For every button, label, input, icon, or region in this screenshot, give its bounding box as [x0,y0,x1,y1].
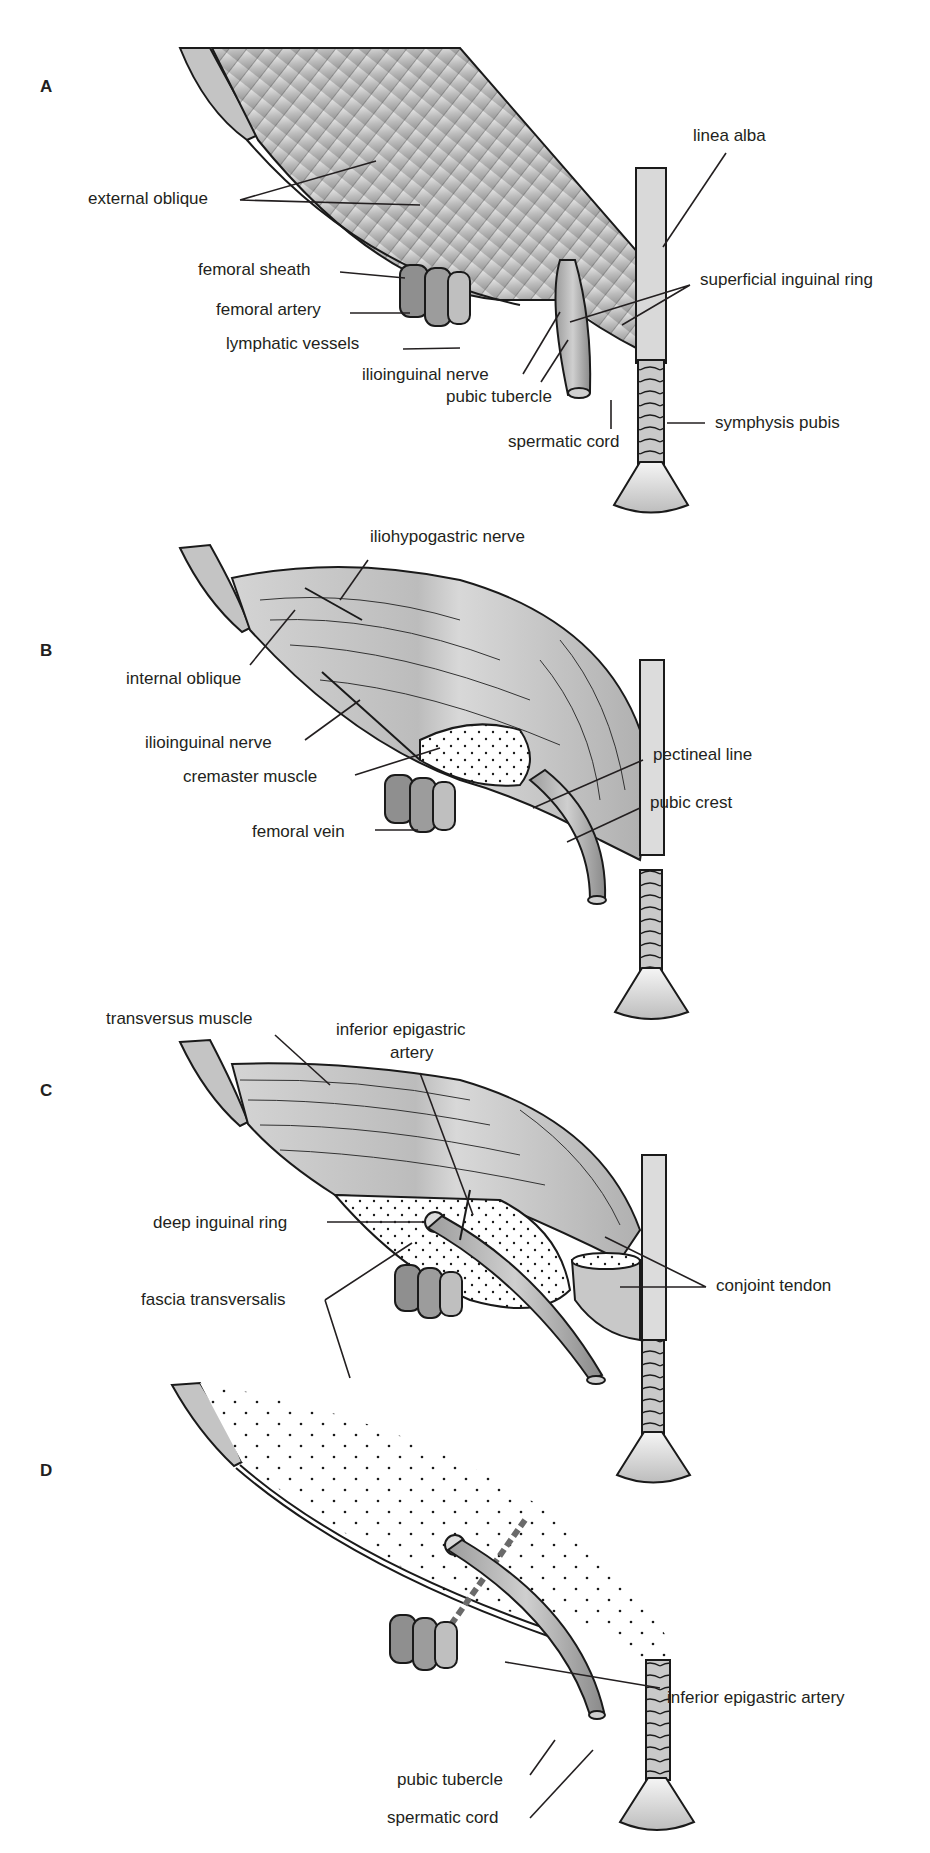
label-external-oblique: external oblique [88,189,208,208]
label-pubic-crest: pubic crest [650,793,732,812]
label-spermatic-cord-d: spermatic cord [387,1808,498,1827]
symphysis-pubis-d [646,1660,670,1780]
symphysis-pubis-a [638,360,664,465]
label-pubic-tubercle-d: pubic tubercle [397,1770,503,1789]
label-femoral-vein: femoral vein [252,822,345,841]
femoral-vessels-b [385,775,455,832]
panel-c: C transversus musc [40,1009,831,1483]
pubic-bone-c [617,1432,690,1483]
panel-d: D inferior epigastric artery pubic tuber… [40,1383,845,1830]
inguinal-anatomy-figure: A external oblique femoral sheath femora… [0,0,930,1853]
linea-alba [636,168,666,363]
linea-alba-c [642,1155,666,1340]
panel-b: B iliohypogastric nerve [40,527,752,1019]
symphysis-pubis-c [642,1340,664,1435]
label-pubic-tubercle-a: pubic tubercle [446,387,552,406]
label-cremaster-muscle: cremaster muscle [183,767,317,786]
pubic-bone-d [620,1778,694,1830]
label-fascia-transversalis: fascia transversalis [141,1290,286,1309]
label-inferior-epigastric-artery-d: inferior epigastric artery [667,1688,845,1707]
femoral-vessels-c [395,1265,462,1318]
femoral-vessels-a [400,265,470,326]
label-internal-oblique: internal oblique [126,669,241,688]
cremaster-muscle [420,724,530,785]
label-deep-inguinal-ring: deep inguinal ring [153,1213,287,1232]
label-symphysis-pubis: symphysis pubis [715,413,840,432]
femoral-vessels-d [390,1615,457,1670]
label-superficial-inguinal-ring: superficial inguinal ring [700,270,873,289]
label-transversus-muscle: transversus muscle [106,1009,252,1028]
label-ilioinguinal-nerve-a: ilioinguinal nerve [362,365,489,384]
label-conjoint-tendon: conjoint tendon [716,1276,831,1295]
panel-letter-b: B [40,641,52,660]
label-linea-alba: linea alba [693,126,766,145]
conjoint-tendon [572,1260,640,1340]
pubic-bone-a [614,462,688,513]
label-ilioinguinal-nerve-b: ilioinguinal nerve [145,733,272,752]
label-iliohypogastric-nerve: iliohypogastric nerve [370,527,525,546]
panel-letter-c: C [40,1081,52,1100]
label-femoral-artery: femoral artery [216,300,321,319]
label-pectineal-line: pectineal line [653,745,752,764]
label-artery: artery [390,1043,434,1062]
symphysis-pubis-b [640,870,662,970]
label-inferior-epigastric: inferior epigastric [336,1020,466,1039]
label-femoral-sheath: femoral sheath [198,260,310,279]
label-spermatic-cord-a: spermatic cord [508,432,619,451]
panel-letter-a: A [40,77,52,96]
pubic-bone-b [615,968,688,1019]
panel-letter-d: D [40,1461,52,1480]
label-lymphatic-vessels: lymphatic vessels [226,334,359,353]
fascia-transversalis-d [200,1383,680,1660]
panel-a: A external oblique femoral sheath femora… [40,48,873,513]
